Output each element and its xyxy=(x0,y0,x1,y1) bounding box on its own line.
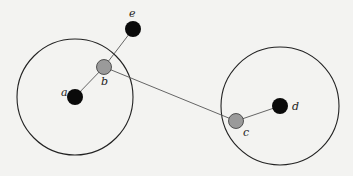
node-label-e: e xyxy=(129,7,136,20)
node-label-a: a xyxy=(61,86,68,99)
node-e xyxy=(125,21,141,37)
node-c xyxy=(229,114,244,129)
node-label-d: d xyxy=(292,100,299,113)
node-b xyxy=(97,60,112,75)
node-label-c: c xyxy=(243,126,249,139)
edge-b-c xyxy=(104,67,236,121)
diagram-svg: abecd xyxy=(0,0,353,176)
node-a xyxy=(67,89,83,105)
network-diagram: abecd xyxy=(0,0,353,176)
node-label-b: b xyxy=(101,75,108,88)
node-d xyxy=(272,98,288,114)
